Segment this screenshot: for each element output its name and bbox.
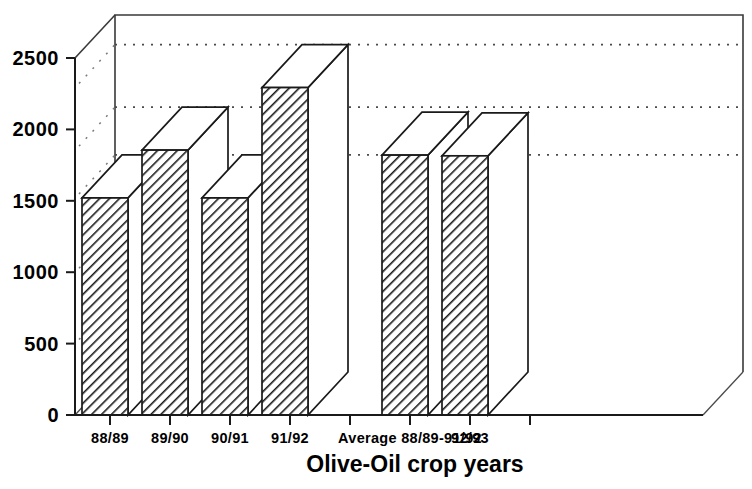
chart-canvas: 05001000150020002500 88/8989/9090/9191/9…: [0, 0, 752, 489]
x-tick-label-0: 88/89: [91, 430, 129, 446]
y-tick-label-5: 2500: [13, 47, 60, 69]
y-tick-label-4: 2000: [13, 118, 60, 140]
y-tick-label-2: 1000: [13, 261, 60, 283]
y-tick-label-0: 0: [47, 404, 59, 426]
x-tick-label-6: 92/93: [451, 430, 489, 446]
bar-3: [262, 45, 348, 415]
x-tick-label-1: 89/90: [151, 430, 189, 446]
bar-6: [442, 113, 528, 415]
x-axis-title: Olive-Oil crop years: [306, 451, 523, 477]
x-tick-label-2: 90/91: [211, 430, 249, 446]
y-tick-label-3: 1500: [13, 190, 60, 212]
bar-chart-figure: 05001000150020002500 88/8989/9090/9191/9…: [0, 0, 752, 489]
y-tick-label-1: 500: [24, 333, 59, 355]
x-tick-label-3: 91/92: [271, 430, 309, 446]
x-axis-tick-labels: 88/8989/9090/9191/92Average 88/89-91/929…: [91, 430, 489, 446]
